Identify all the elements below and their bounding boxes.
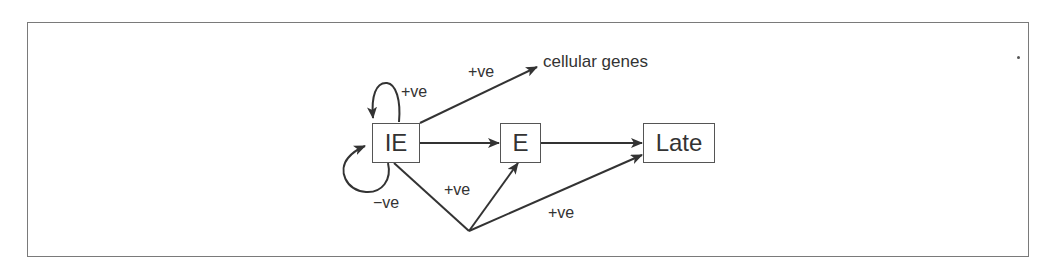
label-to-cellular: +ve bbox=[468, 63, 494, 81]
node-late: Late bbox=[643, 123, 715, 163]
label-branch-to-late: +ve bbox=[548, 204, 574, 222]
stray-dot bbox=[1017, 56, 1020, 59]
self-loop-positive bbox=[373, 83, 400, 122]
node-ie: IE bbox=[372, 123, 420, 163]
node-late-label: Late bbox=[656, 129, 703, 157]
target-cellular-genes: cellular genes bbox=[543, 52, 648, 72]
label-loop-top: +ve bbox=[401, 83, 427, 101]
label-loop-bottom: −ve bbox=[373, 194, 399, 212]
node-e-label: E bbox=[512, 129, 528, 157]
node-e: E bbox=[500, 123, 541, 163]
label-branch-to-e: +ve bbox=[444, 181, 470, 199]
node-ie-label: IE bbox=[385, 129, 408, 157]
